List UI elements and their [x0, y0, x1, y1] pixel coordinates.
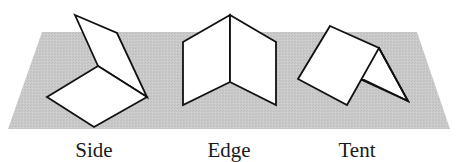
folded-card-diagram: Side Edge Tent: [0, 0, 457, 162]
label-tent: Tent: [338, 138, 375, 162]
label-side: Side: [75, 138, 112, 162]
label-edge: Edge: [207, 138, 250, 162]
